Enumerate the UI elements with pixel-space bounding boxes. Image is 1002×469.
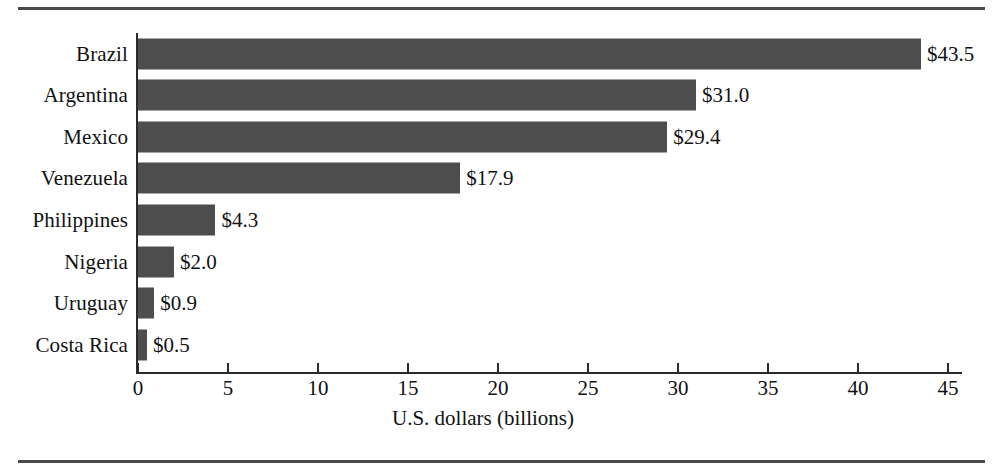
bar-row: Philippines$4.3 [0,199,1002,240]
bar [138,121,667,152]
bar [138,204,215,235]
bar-value-label: $0.9 [160,293,197,314]
x-axis-tick [227,363,229,373]
figure: Brazil$43.5Argentina$31.0Mexico$29.4Vene… [0,0,1002,469]
bar [138,38,921,69]
category-label: Nigeria [64,251,128,272]
bar-value-label: $4.3 [221,209,258,230]
x-axis-tick-label: 40 [848,378,869,399]
category-label: Brazil [76,43,128,64]
bar-value-label: $17.9 [466,168,513,189]
x-axis-tick-label: 5 [223,378,234,399]
bar [138,246,174,277]
category-label: Uruguay [54,293,128,314]
category-label: Mexico [63,126,128,147]
x-axis-tick-label: 45 [938,378,959,399]
category-label: Costa Rica [35,334,128,355]
bar-value-label: $29.4 [673,126,720,147]
x-axis-tick [767,363,769,373]
x-axis-title: U.S. dollars (billions) [0,408,1002,429]
bar [138,288,154,319]
bar-row: Uruguay$0.9 [0,283,1002,324]
bar-row: Argentina$31.0 [0,75,1002,116]
x-axis-tick-label: 25 [578,378,599,399]
category-label: Venezuela [41,168,128,189]
x-axis-tick [857,363,859,373]
bar-value-label: $43.5 [927,43,974,64]
x-axis-title-text: U.S. dollars (billions) [392,408,574,429]
x-axis-tick [947,363,949,373]
bar-chart-plot-area: Brazil$43.5Argentina$31.0Mexico$29.4Vene… [0,0,1002,469]
category-label: Philippines [32,209,128,230]
bar-value-label: $0.5 [153,334,190,355]
x-axis-line [136,372,962,374]
bar-value-label: $31.0 [702,85,749,106]
bar [138,329,147,360]
x-axis-tick [137,363,139,373]
x-axis-tick-label: 0 [133,378,144,399]
x-axis-tick-label: 35 [758,378,779,399]
x-axis-tick-label: 20 [488,378,509,399]
bar-row: Nigeria$2.0 [0,241,1002,282]
bar-value-label: $2.0 [180,251,217,272]
bar [138,80,696,111]
x-axis-tick [407,363,409,373]
bar-row: Mexico$29.4 [0,116,1002,157]
bar-row: Brazil$43.5 [0,33,1002,74]
x-axis-tick [587,363,589,373]
bar-row: Costa Rica$0.5 [0,324,1002,365]
bar-row: Venezuela$17.9 [0,158,1002,199]
category-label: Argentina [44,85,129,106]
x-axis-tick-label: 10 [308,378,329,399]
x-axis-tick-label: 30 [668,378,689,399]
x-axis-tick [497,363,499,373]
bar [138,163,460,194]
x-axis-tick [677,363,679,373]
x-axis-tick-label: 15 [398,378,419,399]
x-axis-tick [317,363,319,373]
